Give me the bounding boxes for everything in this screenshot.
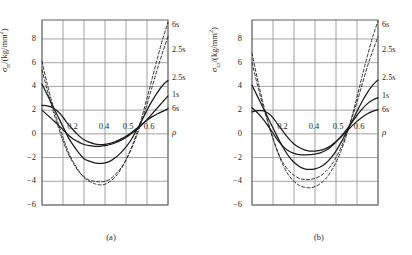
y-axis-subscript-a: rr <box>4 64 11 68</box>
y-axis-exponent-a: 2 <box>0 31 4 34</box>
y-tick-label: 2 <box>226 104 242 114</box>
y-tick-label: 8 <box>20 33 36 43</box>
x-axis-symbol: ρ <box>172 127 176 137</box>
plot-svg-b <box>252 20 378 205</box>
y-axis-subscript-b: zz <box>214 62 221 68</box>
y-axis-symbol-a: σ <box>0 68 9 72</box>
y-tick-label: 6 <box>226 57 242 67</box>
figure-root: σrr/(kg/mm2) (a) 86420−2−4−60.20.40.50.6… <box>0 0 412 255</box>
curve-label-6s-dashed: 6s <box>172 20 179 29</box>
y-tick-label: −6 <box>226 199 242 209</box>
y-axis-label-a: σrr/(kg/mm2) <box>0 58 11 72</box>
y-tick-label: −6 <box>20 199 36 209</box>
y-tick-label: 2 <box>20 104 36 114</box>
plot-svg-a <box>42 20 168 205</box>
y-axis-unit-b: /(kg/mm <box>209 33 219 62</box>
x-axis-inplot-label: 0.5 <box>123 121 134 131</box>
x-axis-symbol: ρ <box>382 127 386 137</box>
x-axis-inplot-label: 0.6 <box>354 121 365 131</box>
y-tick-label: 8 <box>226 33 242 43</box>
x-axis-inplot-label: 0.4 <box>309 121 320 131</box>
curve-label-6s-solid: 6s <box>382 105 389 114</box>
curve-label-6s-solid: 6s <box>172 104 179 113</box>
curve-label-2.5s-solid: 2.5s <box>382 73 395 82</box>
x-axis-inplot-label: 0.5 <box>333 121 344 131</box>
curve-label-2.5s-solid: 2.5s <box>172 73 185 82</box>
y-tick-label: −4 <box>20 175 36 185</box>
plot-area-b <box>252 20 378 205</box>
x-axis-inplot-label: 0.2 <box>277 121 288 131</box>
y-tick-label: −4 <box>226 175 242 185</box>
curve-label-1s-solid: 1s <box>382 91 389 100</box>
curve-label-6s-dashed: 6s <box>382 20 389 29</box>
panel-caption-a: (a) <box>8 232 214 242</box>
y-axis-symbol-b: σ <box>209 68 219 72</box>
y-tick-label: 6 <box>20 57 36 67</box>
y-tick-label: 0 <box>226 128 242 138</box>
plot-area-a <box>42 20 168 205</box>
y-tick-label: −2 <box>20 152 36 162</box>
y-tick-label: 4 <box>226 80 242 90</box>
y-tick-label: −2 <box>226 152 242 162</box>
x-axis-inplot-label: 0.4 <box>99 121 110 131</box>
x-axis-inplot-label: 0.2 <box>67 121 78 131</box>
panel-caption-b: (b) <box>216 232 412 242</box>
chart-panel-a: σrr/(kg/mm2) (a) 86420−2−4−60.20.40.50.6… <box>0 0 206 255</box>
chart-panel-b: σzz/(kg/mm2) (b) 86420−2−4−60.20.40.50.6… <box>206 0 412 255</box>
curve-label-1s-solid: 1s <box>172 90 179 99</box>
y-axis-exponent-b: 2 <box>207 30 214 33</box>
y-axis-paren-a: ) <box>0 28 9 31</box>
y-axis-paren-b: ) <box>209 27 219 30</box>
y-tick-label: 0 <box>20 128 36 138</box>
y-axis-label-b: σzz/(kg/mm2) <box>208 58 221 72</box>
y-tick-label: 4 <box>20 80 36 90</box>
curve-label-2.5s-dashed: 2.5s <box>382 45 395 54</box>
y-axis-unit-a: /(kg/mm <box>0 34 9 63</box>
x-axis-inplot-label: 0.6 <box>144 121 155 131</box>
curve-label-2.5s-dashed: 2.5s <box>172 45 185 54</box>
